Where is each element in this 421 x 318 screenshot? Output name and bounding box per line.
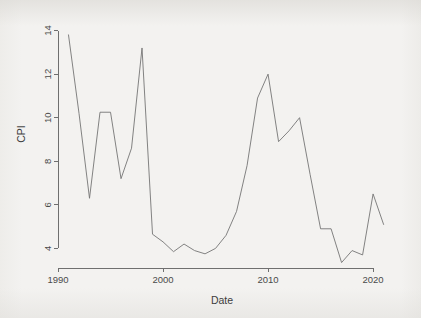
y-axis-ticks: 468101214 <box>42 25 58 251</box>
y-tick-label: 6 <box>42 202 53 207</box>
y-tick-label: 14 <box>42 25 53 36</box>
cpi-line-chart: 468101214 1990200020102020 CPI Date <box>0 0 421 318</box>
cpi-series-line <box>69 35 384 263</box>
x-tick-label: 2010 <box>257 274 278 285</box>
y-tick-label: 4 <box>42 246 53 251</box>
x-tick-label: 1990 <box>47 274 68 285</box>
chart-plot-area: 468101214 1990200020102020 CPI Date <box>0 0 421 318</box>
y-tick-label: 12 <box>42 69 53 80</box>
x-axis-title: Date <box>211 294 233 306</box>
x-axis-ticks: 1990200020102020 <box>47 268 383 285</box>
x-tick-label: 2000 <box>152 274 173 285</box>
y-tick-label: 10 <box>42 112 53 123</box>
y-axis-title: CPI <box>15 125 27 143</box>
x-tick-label: 2020 <box>363 274 384 285</box>
y-tick-label: 8 <box>42 159 53 164</box>
